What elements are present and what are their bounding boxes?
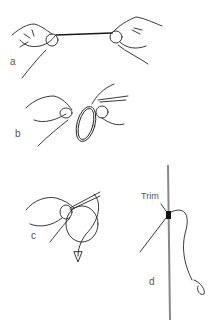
panel-a-drawing <box>12 17 162 78</box>
panel-label-c: c <box>31 230 36 241</box>
knot-illustration <box>0 0 222 325</box>
trim-annotation: Trim <box>141 191 159 201</box>
panel-d-drawing <box>140 165 204 320</box>
panel-label-d: d <box>149 276 155 287</box>
panel-label-a: a <box>10 56 16 67</box>
panel-b-drawing <box>26 84 128 146</box>
figure: a b c d Trim <box>0 0 222 325</box>
panel-label-b: b <box>15 128 21 139</box>
panel-c-drawing <box>26 192 100 262</box>
